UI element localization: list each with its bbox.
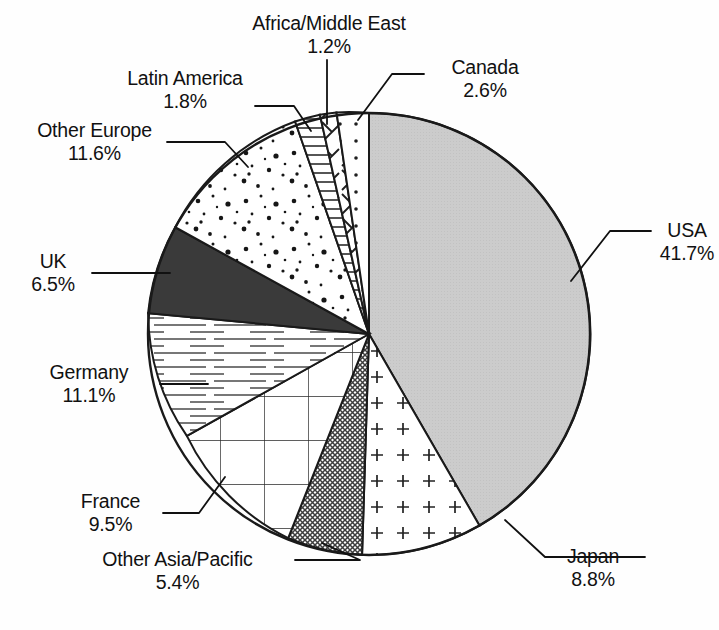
label-other-asia-pacific: Other Asia/Pacific 5.4%	[60, 548, 295, 594]
label-france: France 9.5%	[58, 490, 163, 536]
label-usa-name: USA	[655, 219, 719, 242]
label-canada: Canada 2.6%	[425, 56, 545, 102]
label-africa-middle-east: Africa/Middle East 1.2%	[240, 12, 418, 58]
label-uk-percent: 6.5%	[14, 273, 92, 296]
label-usa-percent: 41.7%	[655, 242, 719, 265]
label-germany-percent: 11.1%	[18, 384, 160, 407]
label-usa: USA 41.7%	[655, 219, 719, 265]
label-uk: UK 6.5%	[14, 250, 92, 296]
label-latin-america: Latin America 1.8%	[110, 67, 260, 113]
label-japan-percent: 8.8%	[548, 568, 638, 591]
label-other-asia-pacific-name: Other Asia/Pacific	[60, 548, 295, 571]
label-japan-name: Japan	[548, 545, 638, 568]
label-france-name: France	[58, 490, 163, 513]
label-germany-name: Germany	[18, 361, 160, 384]
label-africa-middle-east-percent: 1.2%	[240, 35, 418, 58]
label-france-percent: 9.5%	[58, 513, 163, 536]
label-canada-name: Canada	[425, 56, 545, 79]
label-uk-name: UK	[14, 250, 92, 273]
label-germany: Germany 11.1%	[18, 361, 160, 407]
label-latin-america-percent: 1.8%	[110, 90, 260, 113]
label-other-europe-name: Other Europe	[22, 119, 167, 142]
label-other-europe-percent: 11.6%	[22, 142, 167, 165]
label-latin-america-name: Latin America	[110, 67, 260, 90]
label-other-europe: Other Europe 11.6%	[22, 119, 167, 165]
label-other-asia-pacific-percent: 5.4%	[60, 571, 295, 594]
pie-slices	[148, 112, 590, 555]
label-africa-middle-east-name: Africa/Middle East	[240, 12, 418, 35]
label-japan: Japan 8.8%	[548, 545, 638, 591]
label-canada-percent: 2.6%	[425, 79, 545, 102]
